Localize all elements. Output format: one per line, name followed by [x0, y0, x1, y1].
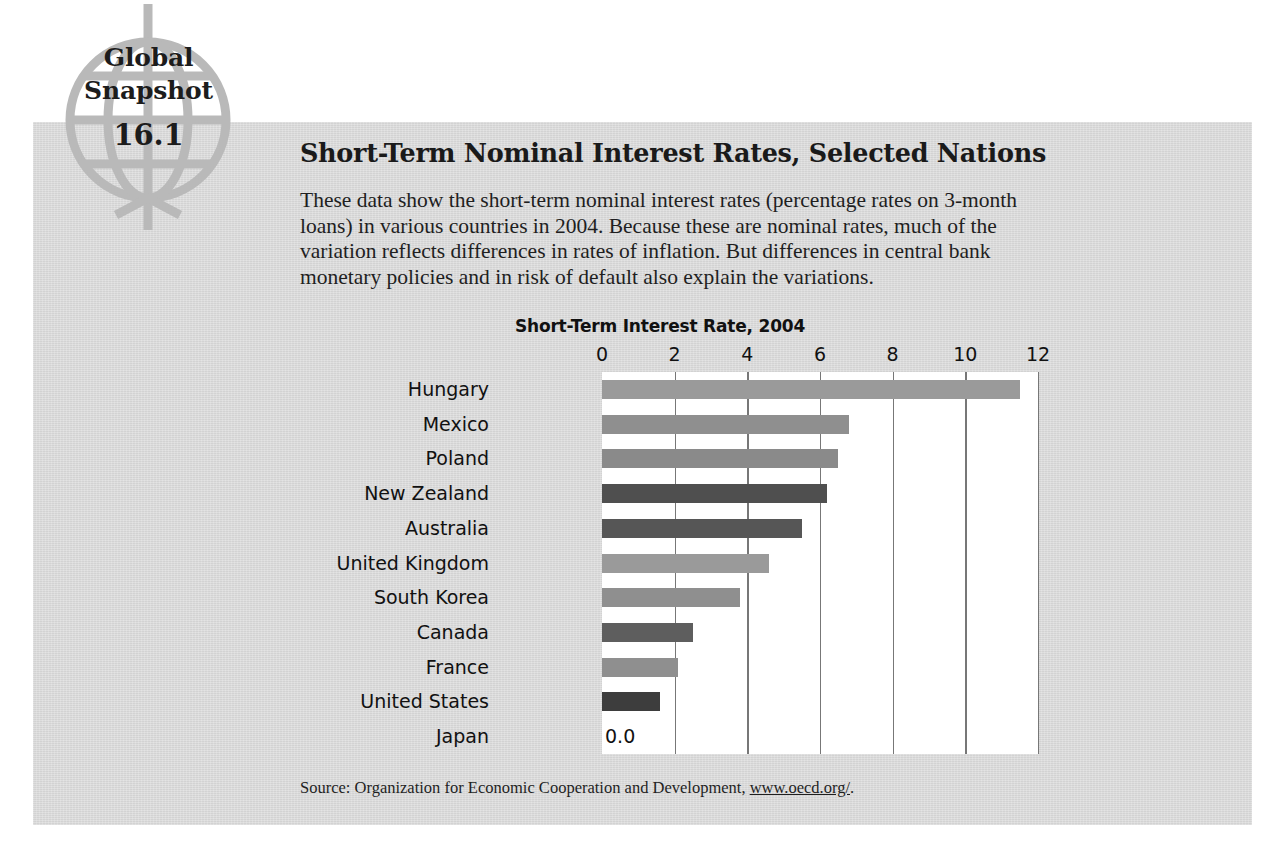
source-suffix: .: [850, 778, 854, 797]
category-label-poland: Poland: [426, 447, 489, 469]
x-tick-label-4: 4: [741, 343, 753, 365]
badge-number: 16.1: [46, 118, 251, 152]
x-axis-ticks: 024681012: [300, 343, 1230, 367]
bar-mexico: [602, 415, 849, 434]
bar-hungary: [602, 380, 1020, 399]
bar-row: [602, 719, 1038, 754]
source-link[interactable]: www.oecd.org/: [750, 778, 850, 797]
badge-line-2: Snapshot: [46, 76, 251, 105]
x-tick-label-10: 10: [953, 343, 977, 365]
category-label-united-kingdom: United Kingdom: [336, 552, 489, 574]
bar-row: [602, 615, 1038, 650]
source-note: Source: Organization for Economic Cooper…: [300, 778, 854, 798]
bar-row: [602, 441, 1038, 476]
x-tick-label-12: 12: [1026, 343, 1050, 365]
x-tick-label-6: 6: [814, 343, 826, 365]
bar-row: [602, 650, 1038, 685]
bar-united-states: [602, 692, 660, 711]
category-label-united-states: United States: [360, 690, 489, 712]
description-paragraph: These data show the short-term nominal i…: [300, 188, 1060, 290]
snapshot-content: Short-Term Nominal Interest Rates, Selec…: [300, 138, 1230, 290]
bar-row: [602, 511, 1038, 546]
bar-row: [602, 684, 1038, 719]
bar-poland: [602, 449, 838, 468]
bar-france: [602, 658, 678, 677]
global-snapshot-badge: Global Snapshot 16.1: [46, 0, 251, 255]
category-label-france: France: [426, 656, 489, 678]
bar-row: [602, 580, 1038, 615]
zero-value-annotation: 0.0: [605, 725, 635, 747]
bar-row: [602, 476, 1038, 511]
category-label-canada: Canada: [417, 621, 489, 643]
x-tick-label-8: 8: [887, 343, 899, 365]
category-label-japan: Japan: [436, 725, 489, 747]
x-tick-label-2: 2: [669, 343, 681, 365]
plot-area: [602, 372, 1039, 754]
chart-title: Short-Term Interest Rate, 2004: [430, 316, 890, 336]
bar-row: [602, 407, 1038, 442]
bar-canada: [602, 623, 693, 642]
bar-row: [602, 372, 1038, 407]
x-tick-label-0: 0: [596, 343, 608, 365]
category-label-south-korea: South Korea: [374, 586, 489, 608]
category-label-australia: Australia: [405, 517, 489, 539]
source-prefix: Source: Organization for Economic Cooper…: [300, 778, 750, 797]
bar-australia: [602, 519, 802, 538]
bar-new-zealand: [602, 484, 827, 503]
category-label-mexico: Mexico: [423, 413, 489, 435]
badge-line-1: Global: [46, 43, 251, 72]
bar-united-kingdom: [602, 554, 769, 573]
bar-south-korea: [602, 588, 740, 607]
bar-row: [602, 546, 1038, 581]
page-title: Short-Term Nominal Interest Rates, Selec…: [300, 138, 1230, 168]
category-label-new-zealand: New Zealand: [364, 482, 489, 504]
category-label-hungary: Hungary: [408, 378, 489, 400]
